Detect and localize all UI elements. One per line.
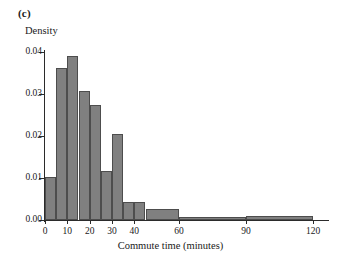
panel-label: (c) — [18, 7, 31, 19]
x-tick-label: 0 — [43, 225, 48, 237]
histogram-bar — [56, 68, 67, 220]
x-axis-line — [44, 220, 329, 221]
histogram-bar — [112, 134, 123, 220]
x-axis-title: Commute time (minutes) — [0, 240, 341, 251]
histogram-bar — [101, 171, 112, 220]
histogram-bar — [67, 56, 78, 220]
histogram-bar — [134, 202, 145, 220]
x-tick-label: 60 — [174, 225, 184, 237]
x-tick-mark — [67, 220, 68, 224]
x-tick-mark — [45, 220, 46, 224]
plot-area — [45, 52, 313, 220]
x-tick-mark — [179, 220, 180, 224]
histogram-bar — [246, 216, 313, 220]
x-tick-label: 30 — [107, 225, 117, 237]
histogram-bar — [90, 105, 101, 221]
y-tick-label: 0.02 — [25, 130, 42, 141]
x-tick-label: 40 — [130, 225, 140, 237]
x-tick-mark — [246, 220, 247, 224]
y-tick-label: 0.03 — [25, 88, 42, 99]
x-tick-mark — [134, 220, 135, 224]
x-tick-mark — [112, 220, 113, 224]
histogram-bar — [146, 209, 180, 220]
x-tick-label: 20 — [85, 225, 95, 237]
y-tick-label: 0.04 — [25, 46, 42, 57]
histogram-bar — [79, 91, 90, 220]
histogram-bar — [45, 177, 56, 220]
x-tick-mark — [90, 220, 91, 224]
x-tick-label: 10 — [63, 225, 73, 237]
y-axis-title: Density — [25, 25, 58, 36]
x-tick-label: 90 — [241, 225, 251, 237]
x-tick-mark — [313, 220, 314, 224]
histogram-figure: (c) Density 0.000.010.020.030.04 0102030… — [0, 0, 341, 266]
histogram-bar — [179, 217, 246, 220]
x-tick-label: 120 — [306, 225, 320, 237]
y-tick-label: 0.01 — [25, 172, 42, 183]
histogram-bar — [123, 202, 134, 220]
y-tick-label: 0.00 — [25, 214, 42, 225]
